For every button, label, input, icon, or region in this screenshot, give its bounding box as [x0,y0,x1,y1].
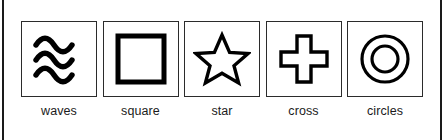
legend-item-waves[interactable]: waves [20,21,98,118]
cross-icon [278,33,330,85]
frame-right-border [440,0,442,140]
legend-item-circles[interactable]: circles [346,21,424,118]
legend-item-label: waves [41,104,77,118]
frame-left-border [2,0,4,140]
legend-item-label: square [121,104,160,118]
legend-item-label: circles [367,104,403,118]
circles-icon [358,32,412,86]
legend-item-square[interactable]: square [102,21,180,118]
waves-icon [31,33,87,85]
swatch-cross[interactable] [266,21,342,97]
star-icon [193,31,251,87]
swatch-square[interactable] [103,21,179,97]
swatch-star[interactable] [184,21,260,97]
shape-legend-panel: waves square star [0,0,447,140]
swatch-circles[interactable] [347,21,423,97]
swatch-waves[interactable] [21,21,97,97]
legend-item-star[interactable]: star [183,21,261,118]
square-icon [114,32,168,86]
legend-item-label: star [211,104,232,118]
legend-item-label: cross [288,104,318,118]
legend-item-cross[interactable]: cross [265,21,343,118]
legend-row: waves square star [20,21,424,118]
